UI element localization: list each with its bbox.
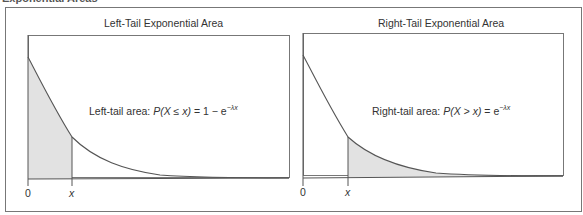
left-tick-zero: 0: [25, 187, 31, 199]
left-formula: Left-tail area: P(X ≤ x) = 1 − e−λx: [89, 104, 238, 117]
right-tick-zero: 0: [300, 186, 306, 198]
right-panel-title: Right-Tail Exponential Area: [378, 17, 504, 29]
right-formula-exponent: −λx: [499, 104, 510, 111]
right-formula-label: Right-tail area:: [372, 105, 443, 117]
left-formula-lhs: P(X ≤ x): [153, 105, 191, 117]
left-panel-title: Left-Tail Exponential Area: [104, 17, 223, 29]
left-formula-label: Left-tail area:: [89, 105, 153, 117]
right-formula-lhs: P(X > x): [443, 105, 481, 117]
right-shaded-area: [348, 137, 563, 177]
right-formula-rhs: = e: [481, 105, 499, 117]
left-shaded-area: [28, 57, 72, 179]
right-formula: Right-tail area: P(X > x) = e−λx: [372, 104, 510, 117]
left-tick-x: x: [69, 187, 74, 199]
left-formula-exponent: −λx: [227, 104, 238, 111]
left-formula-rhs: = 1 − e: [191, 105, 227, 117]
right-tick-x: x: [345, 186, 350, 198]
